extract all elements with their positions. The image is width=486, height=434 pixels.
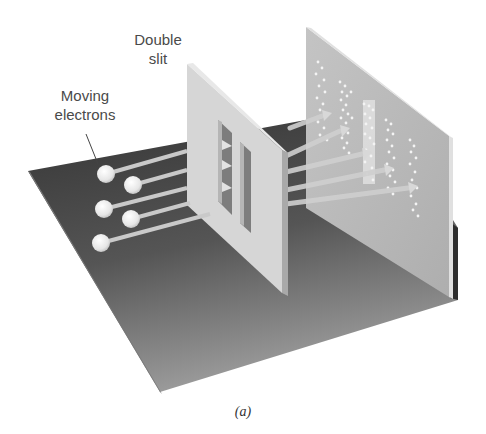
electron	[97, 165, 115, 183]
moving-electrons-label-line1: Moving	[40, 86, 130, 105]
moving-electrons-label: Moving electrons	[40, 86, 130, 124]
electron	[124, 176, 142, 194]
electron	[95, 200, 113, 218]
figure-caption: (a)	[220, 404, 266, 420]
double-slit-label-line2: slit	[118, 49, 198, 68]
electron	[92, 234, 110, 252]
double-slit-label-line1: Double	[118, 30, 198, 49]
moving-electrons-label-line2: electrons	[40, 105, 130, 124]
double-slit-label: Double slit	[118, 30, 198, 68]
electron	[122, 210, 140, 228]
double-slit-diagram	[0, 0, 486, 434]
